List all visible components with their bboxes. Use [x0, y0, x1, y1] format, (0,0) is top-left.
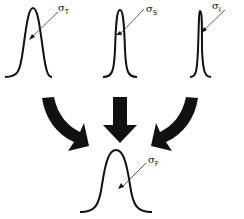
diagram-canvas: σT σS σI σF — [0, 0, 244, 219]
distribution-curve-s: σS — [103, 3, 158, 77]
label-sigma-t: σT — [58, 2, 70, 16]
label-sigma-s: σS — [146, 3, 158, 17]
label-sigma-f: σF — [148, 154, 159, 168]
arrow-left-curved — [42, 97, 89, 151]
pointer-line-i — [204, 10, 225, 30]
distribution-curve-t: σT — [5, 2, 70, 77]
pointer-line-t — [32, 12, 58, 37]
arrow-right-curved — [151, 97, 198, 151]
label-sigma-i: σI — [212, 0, 221, 14]
distribution-curve-f: σF — [80, 150, 159, 212]
arrow-center-straight — [103, 97, 137, 143]
distribution-curve-i: σI — [190, 0, 225, 77]
pointer-arrowhead-f — [118, 183, 124, 189]
